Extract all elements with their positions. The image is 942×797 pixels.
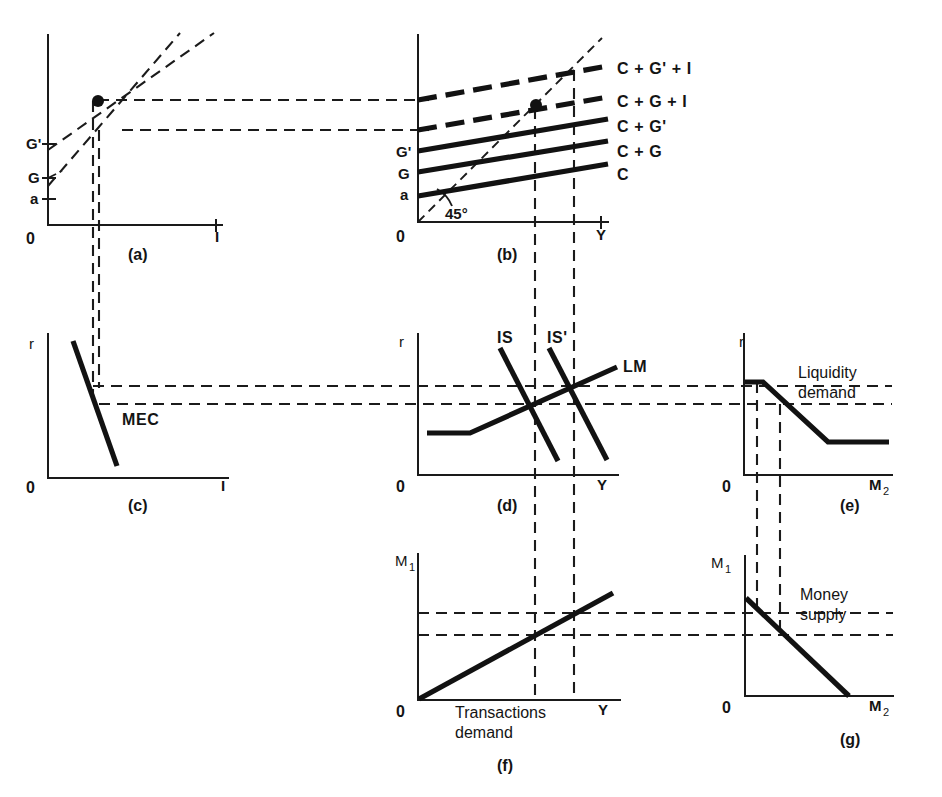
panel-e: r 0 M 2 Liquidity demand (e): [722, 333, 892, 514]
panel-c-label-x-axis: I: [221, 477, 225, 494]
panel-f-note-line-1: Transactions: [455, 704, 546, 721]
panel-b-caption: (b): [497, 246, 517, 263]
panel-d-label-origin: 0: [396, 478, 405, 495]
panel-a: G' G a 0 I (a): [26, 33, 222, 263]
panel-g-label-x-axis-subscript: 2: [883, 706, 889, 718]
panel-c-caption: (c): [128, 497, 148, 514]
panel-d: r 0 Y IS IS' LM (d): [396, 329, 647, 514]
panel-b-label-x-axis: Y: [596, 226, 606, 243]
panel-g-caption: (g): [840, 731, 860, 748]
macroeconomic-model-diagram: G' G a 0 I (a) G' G a 0 Y: [0, 0, 942, 797]
panel-g-label-y-axis: M: [711, 554, 724, 571]
panel-d-curve-label-lm: LM: [623, 358, 647, 375]
panel-a-label-gprime: G': [26, 135, 41, 152]
panel-e-note-line-1: Liquidity: [798, 364, 857, 381]
panel-c-curve-label-mec: MEC: [122, 411, 159, 428]
panel-b-label-gprime: G': [396, 143, 411, 160]
panel-b-curve-label-c-gprime: C + G': [617, 118, 667, 135]
panel-c-label-origin: 0: [26, 479, 35, 496]
panel-e-caption: (e): [840, 497, 860, 514]
panel-f-label-x-axis: Y: [598, 701, 608, 718]
panel-f-label-y-axis: M: [395, 552, 408, 569]
panel-f-note-line-2: demand: [455, 724, 513, 741]
panel-e-label-origin: 0: [722, 478, 731, 495]
panel-g-label-y-axis-subscript: 1: [725, 563, 731, 575]
panel-a-equilibrium-dot: [92, 95, 104, 107]
panel-b-equilibrium-dot: [530, 99, 542, 111]
panel-g: M 1 0 M 2 Money supply (g): [711, 554, 893, 748]
panel-a-label-x-axis: I: [215, 228, 219, 245]
projection-guide-lines: [93, 70, 893, 700]
panel-f-label-y-axis-subscript: 1: [409, 561, 415, 573]
panel-e-label-y-axis: r: [739, 333, 744, 350]
panel-b-angle-label: 45°: [445, 205, 468, 222]
panel-f: M 1 0 Y Transactions demand (f): [395, 552, 620, 774]
panel-d-curve-label-is-prime: IS': [547, 329, 568, 346]
panel-d-curve-label-is: IS: [497, 329, 513, 346]
panel-c-curve-mec: [73, 341, 117, 466]
panel-a-label-origin: 0: [26, 230, 35, 247]
panel-c-label-y-axis: r: [29, 335, 34, 352]
panel-c: r 0 I MEC (c): [26, 334, 228, 514]
panel-b-curve-label-c-gprime-i: C + G' + I: [617, 60, 692, 77]
panel-d-label-y-axis: r: [399, 333, 404, 350]
panel-g-note-line-1: Money: [800, 586, 848, 603]
panel-a-caption: (a): [128, 246, 148, 263]
panel-b-curve-label-c-g: C + G: [617, 143, 662, 160]
panel-b-label-origin: 0: [396, 228, 405, 245]
panel-d-label-x-axis: Y: [597, 476, 607, 493]
panel-e-label-x-axis: M: [869, 476, 882, 493]
panel-a-label-g: G: [28, 169, 40, 186]
panel-b-curve-label-c-g-i: C + G + I: [617, 93, 687, 110]
panel-b-curve-label-c: C: [617, 166, 629, 183]
panel-d-caption: (d): [497, 497, 517, 514]
panel-b-curve-c-plus-gprime-plus-i: [418, 66, 608, 100]
panel-b-label-a: a: [400, 186, 409, 203]
panel-f-label-origin: 0: [396, 703, 405, 720]
panel-f-caption: (f): [497, 757, 513, 774]
panel-a-ray-g-plus-i: [48, 33, 180, 186]
panel-g-label-x-axis: M: [869, 697, 882, 714]
panel-f-curve-transactions-demand: [419, 593, 613, 699]
panel-b-label-g: G: [398, 165, 410, 182]
panel-a-label-a: a: [30, 190, 39, 207]
panel-g-label-origin: 0: [722, 699, 731, 716]
panel-a-ray-gprime-plus-i: [48, 33, 214, 150]
panel-b: G' G a 0 Y 45° (b) C + G' + I C + G + I …: [396, 35, 692, 263]
panel-g-note-line-2: supply: [800, 606, 846, 623]
figure-root: G' G a 0 I (a) G' G a 0 Y: [0, 0, 942, 797]
panel-e-label-x-axis-subscript: 2: [883, 485, 889, 497]
panel-e-note-line-2: demand: [798, 384, 856, 401]
